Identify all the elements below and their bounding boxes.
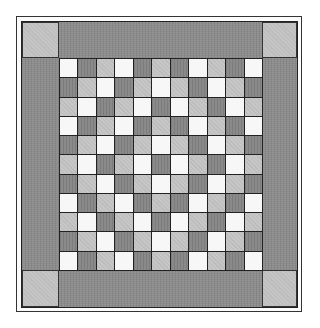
grid-cell-dark	[115, 175, 132, 193]
grid-cell-white	[152, 232, 169, 250]
grid-cell-white	[115, 252, 132, 270]
grid-cell-white	[226, 155, 243, 173]
grid-cell-dark	[226, 59, 243, 77]
grid-cell-dark	[78, 59, 95, 77]
grid-cell-dark	[226, 252, 243, 270]
grid-cell-white	[97, 78, 114, 96]
grid-cell-dark	[189, 78, 206, 96]
grid-cell-white	[208, 78, 225, 96]
grid-cell-dark	[78, 252, 95, 270]
grid-cell-light	[78, 175, 95, 193]
grid-cell-light	[152, 117, 169, 135]
grid-cell-light	[208, 117, 225, 135]
grid-cell-white	[189, 252, 206, 270]
grid-cell-dark	[134, 252, 151, 270]
grid-cell-light	[226, 136, 243, 154]
grid-cell-white	[245, 194, 262, 212]
grid-cell-dark	[134, 59, 151, 77]
grid-cell-light	[189, 98, 206, 116]
grid-cell-white	[97, 175, 114, 193]
grid-cell-light	[134, 78, 151, 96]
grid-cell-dark	[189, 175, 206, 193]
grid-cell-light	[171, 232, 188, 250]
grid-cell-dark	[60, 175, 77, 193]
grid-cell-light	[97, 194, 114, 212]
grid-cell-light	[189, 213, 206, 231]
grid-cell-dark	[208, 155, 225, 173]
grid-cell-dark	[97, 155, 114, 173]
corner-square-top-left	[22, 22, 59, 58]
grid-cell-light	[60, 98, 77, 116]
grid-cell-white	[152, 136, 169, 154]
grid-cell-white	[97, 136, 114, 154]
grid-cell-light	[60, 213, 77, 231]
grid-cell-white	[226, 98, 243, 116]
grid-cell-light	[226, 232, 243, 250]
grid-cell-white	[115, 59, 132, 77]
grid-cell-light	[152, 59, 169, 77]
corner-square-bottom-right	[262, 270, 297, 307]
grid-cell-white	[208, 136, 225, 154]
grid-cell-dark	[245, 136, 262, 154]
grid-cell-white	[78, 98, 95, 116]
grid-cell-dark	[245, 78, 262, 96]
grid-cell-white	[152, 175, 169, 193]
grid-cell-light	[97, 59, 114, 77]
grid-cell-light	[245, 155, 262, 173]
corner-square-top-right	[262, 22, 297, 58]
grid-cell-light	[134, 175, 151, 193]
grid-cell-white	[208, 175, 225, 193]
grid-cell-dark	[245, 232, 262, 250]
grid-cell-dark	[60, 232, 77, 250]
grid-cell-dark	[226, 194, 243, 212]
grid-cell-dark	[97, 98, 114, 116]
grid-cell-dark	[115, 232, 132, 250]
grid-cell-white	[78, 213, 95, 231]
grid-cell-white	[189, 117, 206, 135]
grid-cell-light	[78, 136, 95, 154]
grid-cell-white	[245, 117, 262, 135]
grid-cell-light	[60, 155, 77, 173]
grid-cell-dark	[171, 59, 188, 77]
grid-cell-light	[208, 252, 225, 270]
grid-cell-light	[226, 78, 243, 96]
grid-cell-white	[115, 117, 132, 135]
grid-cell-light	[245, 98, 262, 116]
corner-square-bottom-left	[22, 270, 59, 307]
grid-cell-white	[245, 252, 262, 270]
grid-cell-dark	[134, 194, 151, 212]
grid-cell-white	[208, 232, 225, 250]
grid-cell-white	[171, 213, 188, 231]
grid-cell-light	[226, 175, 243, 193]
grid-cell-white	[97, 232, 114, 250]
grid-cell-light	[171, 175, 188, 193]
grid-cell-white	[134, 213, 151, 231]
grid-cell-white	[152, 78, 169, 96]
grid-cell-white	[245, 59, 262, 77]
grid-cell-light	[115, 213, 132, 231]
grid-cell-light	[245, 213, 262, 231]
grid-cell-dark	[115, 136, 132, 154]
grid-cell-white	[226, 213, 243, 231]
grid-cell-dark	[60, 78, 77, 96]
grid-cell-light	[152, 252, 169, 270]
grid-cell-dark	[208, 213, 225, 231]
grid-cell-light	[134, 136, 151, 154]
grid-cell-dark	[115, 78, 132, 96]
grid-cell-dark	[152, 155, 169, 173]
grid-cell-white	[189, 194, 206, 212]
grid-cell-dark	[60, 136, 77, 154]
grid-cell-dark	[208, 98, 225, 116]
grid-cell-white	[171, 155, 188, 173]
grid-cell-dark	[97, 213, 114, 231]
grid-cell-light	[134, 232, 151, 250]
grid-cell-light	[208, 194, 225, 212]
grid-cell-dark	[152, 98, 169, 116]
grid-cell-white	[60, 194, 77, 212]
grid-cell-light	[97, 117, 114, 135]
grid-cell-white	[171, 98, 188, 116]
grid-cell-white	[189, 59, 206, 77]
checkerboard-grid	[59, 58, 263, 271]
grid-cell-dark	[78, 117, 95, 135]
grid-cell-white	[134, 98, 151, 116]
